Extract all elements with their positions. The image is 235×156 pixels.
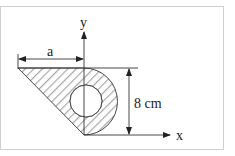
dimension-height-label: 8 cm bbox=[134, 96, 162, 111]
dimension-a-label: a bbox=[47, 44, 54, 59]
x-axis-label: x bbox=[176, 128, 183, 143]
y-axis-label: y bbox=[80, 15, 87, 30]
circular-hole bbox=[70, 85, 102, 117]
diagram-canvas: y x a 8 cm bbox=[0, 0, 235, 156]
